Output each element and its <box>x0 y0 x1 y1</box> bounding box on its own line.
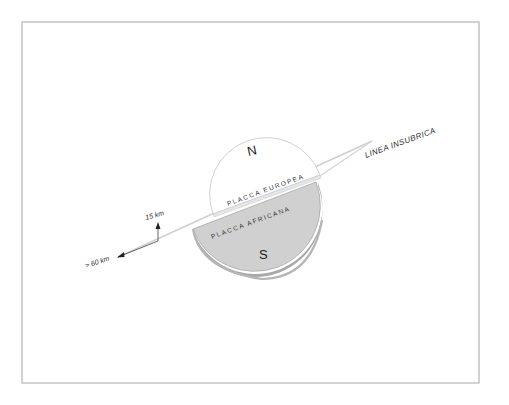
south-label: S <box>259 247 268 262</box>
plate-diagram: N S PLACCA EUROPEA PLACCA AFRICANA LINEA… <box>0 0 509 405</box>
